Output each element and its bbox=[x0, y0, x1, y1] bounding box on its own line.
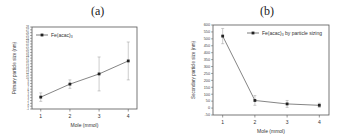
data-point-marker bbox=[253, 99, 256, 102]
plot-frame bbox=[32, 27, 137, 109]
y-axis-ticks: -50050100150200250300350400450500550600 bbox=[204, 23, 213, 117]
chart-a: -101234567891011121314151617181920212223… bbox=[0, 0, 170, 138]
y-tick-label: 350 bbox=[204, 58, 210, 62]
x-tick-label: 1 bbox=[221, 119, 224, 125]
data-point-marker bbox=[286, 103, 289, 106]
y-tick-label: 400 bbox=[204, 51, 210, 55]
legend: Fe(acac)3 bbox=[36, 32, 73, 39]
legend-label: Fe(acac)3 bbox=[51, 32, 73, 39]
y-tick-label: 200 bbox=[204, 79, 210, 83]
legend-marker-icon bbox=[41, 34, 44, 37]
data-series bbox=[39, 42, 130, 101]
data-point-marker bbox=[98, 73, 101, 76]
data-series bbox=[221, 28, 321, 107]
y-tick-label: 0 bbox=[208, 106, 210, 110]
data-point-marker bbox=[69, 83, 72, 86]
data-point-marker bbox=[318, 104, 321, 107]
y-tick-label: 550 bbox=[204, 30, 210, 34]
y-tick-label: 300 bbox=[204, 65, 210, 69]
y-tick-label: -50 bbox=[205, 113, 211, 117]
data-point-marker bbox=[39, 96, 42, 99]
y-tick-label: 28 bbox=[26, 25, 29, 29]
x-tick-label: 1 bbox=[39, 113, 42, 119]
x-axis-ticks: 1234 bbox=[221, 115, 321, 125]
plot-frame bbox=[213, 25, 329, 115]
x-tick-label: 3 bbox=[98, 113, 101, 119]
x-axis-label: Mole (mmol) bbox=[257, 128, 285, 134]
y-tick-label: 250 bbox=[204, 72, 210, 76]
x-tick-label: 4 bbox=[127, 113, 130, 119]
x-tick-label: 2 bbox=[253, 119, 256, 125]
y-tick-label: 450 bbox=[204, 44, 210, 48]
y-axis-label: Primary particle size (nm) bbox=[12, 41, 17, 94]
y-tick-label: 600 bbox=[204, 23, 210, 27]
data-point-marker bbox=[221, 35, 224, 38]
x-tick-label: 4 bbox=[318, 119, 321, 125]
legend-label: Fe(acac)3 by particle sizing bbox=[262, 30, 322, 37]
x-tick-label: 2 bbox=[69, 113, 72, 119]
y-tick-label: 500 bbox=[204, 37, 210, 41]
chart-b: -500501001502002503003504004505005506001… bbox=[170, 0, 345, 138]
y-axis-ticks: -101234567891011121314151617181920212223… bbox=[26, 25, 32, 111]
x-axis-ticks: 1234 bbox=[39, 109, 130, 119]
legend-marker-icon bbox=[252, 32, 255, 35]
y-tick-label: 100 bbox=[204, 93, 210, 97]
legend: Fe(acac)3 by particle sizing bbox=[247, 30, 322, 37]
data-point-marker bbox=[127, 60, 130, 63]
y-tick-label: 50 bbox=[206, 99, 210, 103]
x-axis-label: Mole (mmol) bbox=[71, 122, 99, 128]
y-tick-label: 150 bbox=[204, 86, 210, 90]
y-axis-label: Secondary particle size (nm) bbox=[191, 40, 196, 99]
x-tick-label: 3 bbox=[286, 119, 289, 125]
